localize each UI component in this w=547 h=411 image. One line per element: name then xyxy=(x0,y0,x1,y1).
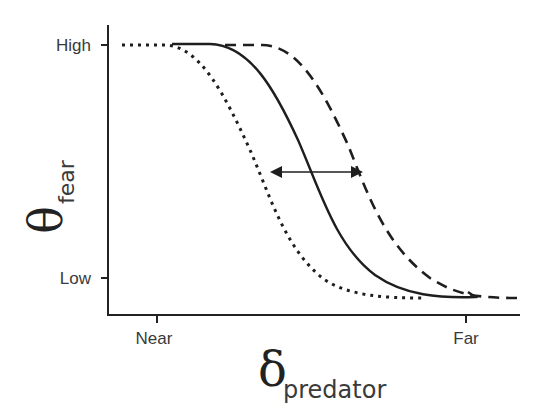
solid-curve xyxy=(172,44,475,297)
y-axis-symbol: θ xyxy=(19,206,73,234)
arrowhead-left-icon xyxy=(270,166,282,178)
curves xyxy=(122,44,517,298)
x-tick-label-far: Far xyxy=(453,329,479,348)
y-tick-label-low: Low xyxy=(60,269,92,288)
x-axis-title: δ predator xyxy=(258,341,386,404)
x-axis-subscript: predator xyxy=(283,376,386,404)
x-tick-label-near: Near xyxy=(136,329,173,348)
dashed-curve xyxy=(225,45,517,298)
axes xyxy=(101,25,520,323)
y-axis-title: θ fear xyxy=(19,159,79,234)
shift-double-arrow xyxy=(270,166,363,178)
y-tick-label-high: High xyxy=(56,36,91,55)
y-axis-subscript: fear xyxy=(54,159,79,204)
chart: High Low Near Far θ fear δ predator xyxy=(0,0,547,411)
